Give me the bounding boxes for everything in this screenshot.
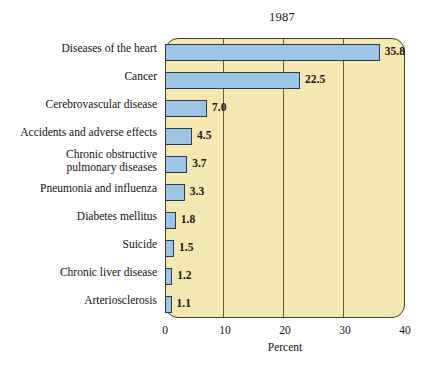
category-label-3: Accidents and adverse effects (0, 126, 161, 139)
category-label-8: Chronic liver disease (0, 266, 161, 279)
bar-value-label: 7.0 (212, 102, 226, 114)
category-label-6: Diabetes mellitus (0, 210, 161, 223)
bar-value-label: 3.3 (190, 186, 204, 198)
x-axis-title: Percent (165, 341, 405, 353)
category-label-0: Diseases of the heart (0, 42, 161, 55)
bar-cerebrovascular-disease[interactable] (165, 100, 207, 117)
category-label-4: Chronic obstructive pulmonary diseases (0, 148, 161, 173)
category-label-line: Cerebrovascular disease (46, 98, 157, 110)
bar-value-label: 1.1 (177, 298, 191, 310)
bar-cancer[interactable] (165, 72, 300, 89)
chart-title: 1987 (0, 10, 440, 25)
chart-title-text: 1987 (269, 10, 295, 25)
bar-row: 7.0 (165, 94, 405, 122)
category-label-line: Cancer (124, 70, 157, 82)
bar-suicide[interactable] (165, 240, 174, 257)
bar-arteriosclerosis[interactable] (165, 296, 172, 313)
category-labels: Diseases of the heart Cancer Cerebrovasc… (0, 38, 161, 318)
category-label-line: pulmonary diseases (0, 161, 157, 174)
category-label-line: Diseases of the heart (62, 42, 157, 54)
bar-value-label: 1.2 (177, 270, 191, 282)
bar-value-label: 35.8 (385, 46, 405, 58)
x-tick-40: 40 (399, 324, 411, 336)
bar-row: 3.3 (165, 178, 405, 206)
category-label-1: Cancer (0, 70, 161, 83)
bar-value-label: 1.8 (181, 214, 195, 226)
category-label-7: Suicide (0, 238, 161, 251)
category-label-line: Accidents and adverse effects (20, 126, 157, 138)
bar-chart: 1987 Diseases of the heart Cancer Cerebr… (0, 0, 440, 368)
category-label-line: Suicide (123, 238, 158, 250)
x-tick-30: 30 (339, 324, 351, 336)
bar-row: 1.8 (165, 206, 405, 234)
bar-pneumonia-and-influenza[interactable] (165, 184, 185, 201)
bar-row: 1.5 (165, 234, 405, 262)
category-label-line: Chronic obstructive (66, 148, 157, 160)
bar-value-label: 4.5 (197, 130, 211, 142)
bar-row: 1.1 (165, 290, 405, 318)
bar-accidents-and-adverse-effects[interactable] (165, 128, 192, 145)
bar-chronic-liver-disease[interactable] (165, 268, 172, 285)
bar-row: 35.8 (165, 38, 405, 66)
bar-row: 22.5 (165, 66, 405, 94)
bar-diabetes-mellitus[interactable] (165, 212, 176, 229)
category-label-2: Cerebrovascular disease (0, 98, 161, 111)
category-label-line: Diabetes mellitus (77, 210, 157, 222)
bar-value-label: 22.5 (305, 74, 325, 86)
category-label-9: Arteriosclerosis (0, 294, 161, 307)
category-label-5: Pneumonia and influenza (0, 182, 161, 195)
x-tick-10: 10 (219, 324, 231, 336)
category-label-line: Pneumonia and influenza (40, 182, 157, 194)
category-label-line: Arteriosclerosis (84, 294, 157, 306)
bar-value-label: 1.5 (179, 242, 193, 254)
x-tick-0: 0 (162, 324, 168, 336)
bar-row: 1.2 (165, 262, 405, 290)
bar-row: 3.7 (165, 150, 405, 178)
bar-diseases-of-the-heart[interactable] (165, 44, 380, 61)
category-label-line: Chronic liver disease (60, 266, 157, 278)
x-axis: 0 10 20 30 40 (165, 318, 405, 338)
bar-chronic-obstructive-pulmonary-diseases[interactable] (165, 156, 187, 173)
bar-value-label: 3.7 (192, 158, 206, 170)
x-tick-20: 20 (279, 324, 291, 336)
bar-row: 4.5 (165, 122, 405, 150)
bars-layer: 35.8 22.5 7.0 4.5 3.7 3.3 1.8 1.5 (165, 38, 405, 318)
